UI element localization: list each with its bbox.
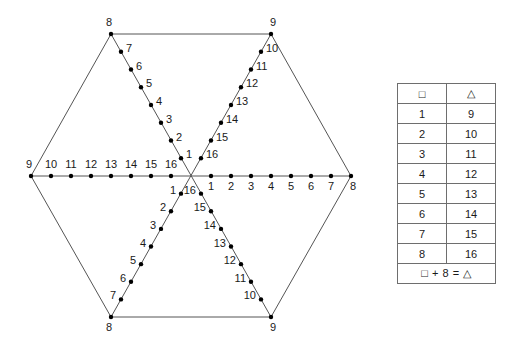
arm-dot: [349, 174, 353, 178]
arm-label-arm-left-horizontal-5: 12: [85, 159, 97, 170]
arm-label-arm-lower-right-7: 10: [244, 290, 256, 301]
table-header-row: □ △: [398, 84, 496, 104]
arm-label-arm-right-horizontal-5: 5: [288, 181, 294, 192]
table-row: 6 14: [398, 204, 496, 224]
arm-dot: [269, 174, 273, 178]
cell-triangle: 14: [447, 204, 496, 224]
table-row: 4 12: [398, 164, 496, 184]
arm-dot: [109, 315, 113, 319]
arm-dot: [139, 85, 143, 89]
arm-label-arm-upper-left-4: 4: [156, 96, 162, 107]
cell-triangle: 9: [447, 104, 496, 124]
arm-dot: [49, 174, 53, 178]
arm-dot: [219, 227, 223, 231]
arm-label-arm-upper-left-7: 7: [126, 43, 132, 54]
arm-label-arm-left-horizontal-4: 13: [105, 159, 117, 170]
vertex-label-top-right: 9: [270, 17, 276, 28]
arm-label-arm-upper-right-5: 12: [246, 78, 258, 89]
cell-square: 5: [398, 184, 447, 204]
cell-triangle: 10: [447, 124, 496, 144]
arm-dot: [229, 174, 233, 178]
arm-label-arm-lower-right-2: 15: [194, 202, 206, 213]
arm-dot: [259, 297, 263, 301]
arm-dot: [149, 103, 153, 107]
vertex-label-top-left: 8: [106, 17, 112, 28]
cell-triangle: 16: [447, 244, 496, 264]
arm-dot: [159, 121, 163, 125]
arm-dot: [209, 209, 213, 213]
arm-dot: [179, 156, 183, 160]
arm-dot: [169, 174, 173, 178]
arm-dot: [239, 85, 243, 89]
arm-label-arm-upper-right-1: 16: [206, 149, 218, 160]
vertex-label-right: 8: [350, 181, 356, 192]
arm-label-arm-lower-right-5: 12: [224, 255, 236, 266]
arm-dot: [129, 67, 133, 71]
arm-dot: [259, 50, 263, 54]
arm-label-arm-lower-right-1: 16: [184, 185, 196, 196]
cell-square: 2: [398, 124, 447, 144]
arm-label-arm-upper-right-7: 10: [266, 43, 278, 54]
arm-dot: [129, 280, 133, 284]
arm-label-arm-right-horizontal-4: 4: [268, 181, 274, 192]
hexagon-diagonals: [31, 34, 351, 317]
arm-label-arm-lower-left-1: 1: [170, 185, 176, 196]
arm-label-arm-upper-right-2: 15: [216, 132, 228, 143]
table-row: 8 16: [398, 244, 496, 264]
hexagon-figure: 1615141312111012345671234567161514131211…: [0, 0, 370, 341]
header-square: □: [398, 84, 447, 104]
arm-label-arm-upper-left-1: 1: [186, 149, 192, 160]
table-row: 1 9: [398, 104, 496, 124]
arm-dot: [89, 174, 93, 178]
arm-label-arm-upper-left-6: 6: [136, 61, 142, 72]
arm-dot: [209, 174, 213, 178]
arm-dot: [219, 121, 223, 125]
arm-label-arm-lower-left-4: 4: [140, 238, 146, 249]
arm-dot: [149, 244, 153, 248]
cell-square: 4: [398, 164, 447, 184]
arm-dot: [139, 262, 143, 266]
square-triangle-table: □ △ 1 9 2 10 3 11 4 12 5 13: [397, 83, 496, 284]
hexagon-svg: [0, 0, 370, 341]
arm-label-arm-lower-left-7: 7: [110, 290, 116, 301]
arm-dot: [329, 174, 333, 178]
arm-label-arm-lower-right-3: 14: [204, 220, 216, 231]
arm-dot: [119, 297, 123, 301]
vertex-label-bottom-right: 9: [270, 322, 276, 333]
arm-dot: [199, 156, 203, 160]
arm-label-arm-lower-left-2: 2: [160, 202, 166, 213]
cell-square: 6: [398, 204, 447, 224]
cell-triangle: 11: [447, 144, 496, 164]
arm-label-arm-right-horizontal-2: 2: [228, 181, 234, 192]
header-triangle: △: [447, 84, 496, 104]
arm-label-arm-right-horizontal-7: 7: [328, 181, 334, 192]
vertex-label-bottom-left: 8: [106, 322, 112, 333]
arm-dot: [179, 191, 183, 195]
arm-label-arm-upper-right-6: 11: [256, 61, 267, 72]
arm-dot: [229, 103, 233, 107]
arm-label-arm-lower-left-6: 6: [120, 273, 126, 284]
table-row: 5 13: [398, 184, 496, 204]
cell-triangle: 12: [447, 164, 496, 184]
arm-dot: [239, 262, 243, 266]
table-row: 7 15: [398, 224, 496, 244]
arm-dot: [269, 315, 273, 319]
arm-dot: [199, 191, 203, 195]
arm-dot: [229, 244, 233, 248]
table-footer-row: □ + 8 = △: [398, 264, 496, 284]
arm-label-arm-upper-left-2: 2: [176, 132, 182, 143]
diagram-page: 1615141312111012345671234567161514131211…: [0, 0, 509, 341]
arm-label-arm-left-horizontal-6: 11: [65, 159, 76, 170]
arm-dot: [29, 174, 33, 178]
arm-dot: [269, 32, 273, 36]
arm-label-arm-left-horizontal-3: 14: [125, 159, 137, 170]
arm-dot: [249, 280, 253, 284]
arm-label-arm-right-horizontal-6: 6: [308, 181, 314, 192]
vertex-label-left: 9: [26, 159, 32, 170]
arm-label-arm-right-horizontal-1: 1: [208, 181, 214, 192]
arm-label-arm-lower-right-6: 11: [235, 273, 246, 284]
arm-label-arm-lower-left-5: 5: [130, 255, 136, 266]
arm-dot: [169, 138, 173, 142]
arm-dot: [109, 174, 113, 178]
arm-label-arm-lower-left-3: 3: [150, 220, 156, 231]
